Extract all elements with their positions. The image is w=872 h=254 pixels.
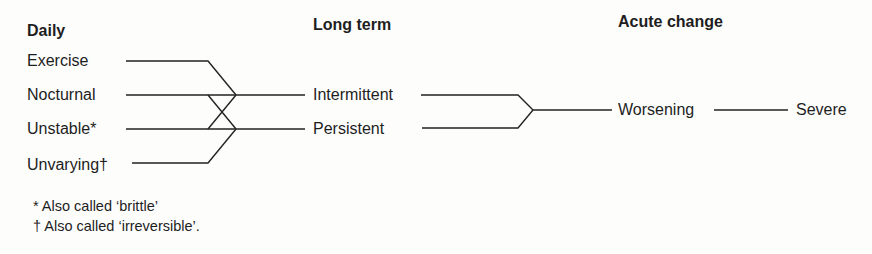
connector-intermittent [421, 95, 533, 110]
connector-persistent [422, 110, 533, 128]
connector-exercise [126, 61, 236, 95]
connector-unvarying [132, 129, 236, 163]
connector-lines [0, 0, 872, 254]
